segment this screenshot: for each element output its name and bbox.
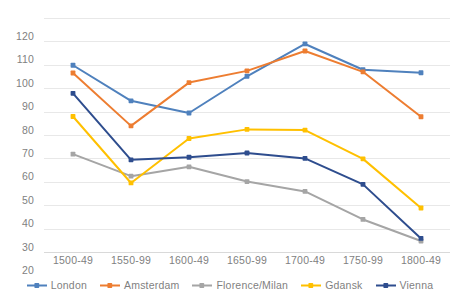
data-point-marker xyxy=(71,114,76,119)
legend-label: Amsterdam xyxy=(124,279,179,291)
x-axis-tick-label: 1600-49 xyxy=(169,254,209,266)
y-axis-tick-label: 100 xyxy=(16,77,34,89)
legend-label: Gdansk xyxy=(325,279,362,291)
data-point-marker xyxy=(361,156,366,161)
x-axis-line xyxy=(44,252,450,253)
y-axis-tick-label: 90 xyxy=(22,100,34,112)
series-gdansk xyxy=(71,114,424,210)
data-point-marker xyxy=(129,123,134,128)
x-axis: 1500-491550-991600-491650-991700-491750-… xyxy=(44,254,450,272)
data-point-marker xyxy=(129,157,134,162)
data-point-marker xyxy=(71,71,76,76)
legend-swatch-icon xyxy=(376,281,396,290)
x-axis-tick-label: 1700-49 xyxy=(285,254,325,266)
x-axis-tick-label: 1550-99 xyxy=(111,254,151,266)
x-axis-tick-label: 1750-99 xyxy=(343,254,383,266)
data-point-marker xyxy=(361,217,366,222)
data-point-marker xyxy=(245,74,250,79)
data-point-marker xyxy=(245,151,250,156)
data-point-marker xyxy=(303,128,308,133)
legend-label: London xyxy=(51,279,87,291)
data-point-marker xyxy=(419,236,424,241)
y-axis-tick-label: 110 xyxy=(17,53,34,65)
line-chart: 2030405060708090100110120 1500-491550-99… xyxy=(0,0,460,300)
legend-item-vienna[interactable]: Vienna xyxy=(376,279,434,291)
data-point-marker xyxy=(303,189,308,194)
data-point-marker xyxy=(71,91,76,96)
legend-label: Vienna xyxy=(400,279,434,291)
y-axis: 2030405060708090100110120 xyxy=(0,18,40,252)
data-point-marker xyxy=(187,111,192,116)
legend-label: Florence/Milan xyxy=(216,279,288,291)
x-axis-tick-label: 1650-99 xyxy=(227,254,267,266)
y-axis-tick-label: 120 xyxy=(16,30,34,42)
y-axis-tick-label: 60 xyxy=(22,170,34,182)
data-point-marker xyxy=(361,69,366,74)
data-point-marker xyxy=(419,70,424,75)
legend-item-gdansk[interactable]: Gdansk xyxy=(301,279,362,291)
x-axis-tick-label: 1500-49 xyxy=(53,254,93,266)
plot-area xyxy=(44,18,450,252)
data-point-marker xyxy=(245,68,250,73)
data-point-marker xyxy=(187,164,192,169)
y-axis-tick-label: 40 xyxy=(22,217,34,229)
data-point-marker xyxy=(245,179,250,184)
chart-legend: LondonAmsterdamFlorence/MilanGdanskVienn… xyxy=(0,276,460,294)
data-point-marker xyxy=(71,152,76,157)
series-amsterdam xyxy=(71,49,424,129)
data-point-marker xyxy=(419,206,424,211)
data-point-marker xyxy=(245,127,250,132)
data-point-marker xyxy=(187,80,192,85)
legend-item-florence-milan[interactable]: Florence/Milan xyxy=(192,279,288,291)
series-line xyxy=(73,93,421,238)
legend-item-amsterdam[interactable]: Amsterdam xyxy=(100,279,179,291)
data-point-marker xyxy=(129,181,134,186)
data-point-marker xyxy=(303,42,308,47)
data-point-marker xyxy=(361,182,366,187)
data-point-marker xyxy=(419,114,424,119)
data-point-marker xyxy=(303,156,308,161)
legend-swatch-icon xyxy=(100,281,120,290)
y-axis-tick-label: 80 xyxy=(22,124,34,136)
x-axis-tick-label: 1800-49 xyxy=(401,254,441,266)
legend-item-london[interactable]: London xyxy=(27,279,87,291)
data-point-marker xyxy=(187,136,192,141)
legend-swatch-icon xyxy=(192,281,212,290)
data-point-marker xyxy=(129,98,134,103)
y-axis-tick-label: 70 xyxy=(22,147,34,159)
legend-swatch-icon xyxy=(301,281,321,290)
series-container xyxy=(44,18,450,252)
y-axis-tick-label: 20 xyxy=(22,264,34,276)
legend-swatch-icon xyxy=(27,281,47,290)
series-line xyxy=(73,51,421,126)
y-axis-tick-label: 30 xyxy=(22,241,34,253)
y-axis-tick-label: 50 xyxy=(22,194,34,206)
data-point-marker xyxy=(71,63,76,68)
data-point-marker xyxy=(303,49,308,54)
series-line xyxy=(73,154,421,241)
data-point-marker xyxy=(187,155,192,160)
data-point-marker xyxy=(129,174,134,179)
